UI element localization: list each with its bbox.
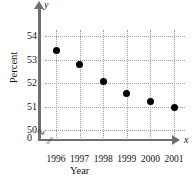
y-tick-label: 50 <box>23 125 37 135</box>
x-axis-line <box>38 139 174 141</box>
y-tick-label: 54 <box>23 31 37 41</box>
x-axis-title: Year <box>70 165 89 176</box>
y-axis-line <box>38 8 41 141</box>
y-tick-label: 53 <box>23 55 37 65</box>
data-point <box>100 78 107 85</box>
data-point <box>123 90 130 97</box>
data-point <box>76 61 83 68</box>
x-tick-label: 2000 <box>138 154 162 164</box>
data-point <box>171 104 178 111</box>
y-axis-symbol: y <box>44 0 48 10</box>
x-tick-label: 1998 <box>91 154 115 164</box>
gridline-horizontal <box>45 60 185 61</box>
gridline-vertical <box>80 30 81 138</box>
y-axis-arrow-icon <box>34 1 44 9</box>
gridline-horizontal <box>45 130 185 131</box>
plot-area <box>45 30 185 138</box>
gridline-vertical <box>150 30 151 138</box>
y-tick-label: 52 <box>23 78 37 88</box>
chart-figure: Percent y x ∿ ⁄⁄ 0 Year 5453525150199619… <box>0 0 195 183</box>
gridline-vertical <box>127 30 128 138</box>
data-point <box>147 98 154 105</box>
gridline-vertical <box>174 30 175 138</box>
gridline-horizontal <box>45 36 185 37</box>
gridline-horizontal <box>45 107 185 108</box>
y-tick-label: 51 <box>23 102 37 112</box>
x-tick-label: 1999 <box>115 154 139 164</box>
x-tick-label: 1996 <box>44 154 68 164</box>
y-axis-title: Percent <box>8 38 19 98</box>
x-tick-label: 2001 <box>162 154 186 164</box>
gridline-horizontal <box>45 83 185 84</box>
x-tick-label: 1997 <box>68 154 92 164</box>
data-point <box>53 47 60 54</box>
